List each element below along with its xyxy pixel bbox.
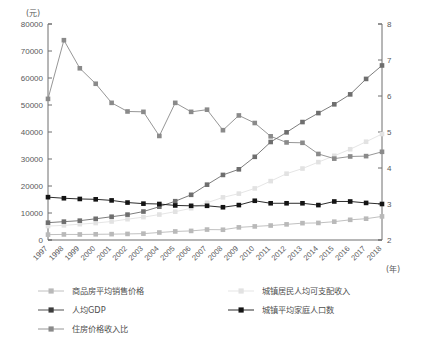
data-point xyxy=(268,223,273,228)
data-point xyxy=(221,128,226,133)
data-point xyxy=(62,232,67,237)
series-line xyxy=(48,216,382,234)
data-point xyxy=(380,63,385,68)
line-chart: 0100002000030000400005000060000700008000… xyxy=(0,0,431,344)
x-axis-tick-label: 2009 xyxy=(222,244,240,262)
data-point xyxy=(332,199,337,204)
data-point xyxy=(141,209,146,214)
x-axis-unit-label: (年) xyxy=(386,264,400,274)
data-point xyxy=(284,140,289,145)
x-axis-tick-label: 2003 xyxy=(127,244,145,262)
data-point xyxy=(364,216,369,221)
x-axis-tick-label: 2001 xyxy=(95,244,113,262)
data-point xyxy=(46,232,51,237)
data-point xyxy=(189,193,194,198)
y-axis-left-tick-label: 40000 xyxy=(21,128,44,137)
data-point xyxy=(348,147,353,152)
data-point xyxy=(109,198,114,203)
data-point xyxy=(316,152,321,157)
data-point xyxy=(141,231,146,236)
data-point xyxy=(109,101,114,106)
data-point xyxy=(364,154,369,159)
y-axis-left-tick-label: 20000 xyxy=(21,182,44,191)
x-axis-tick-label: 2006 xyxy=(174,244,192,262)
x-axis-tick-label: 2007 xyxy=(190,244,208,262)
data-point xyxy=(380,132,385,137)
data-point xyxy=(189,229,194,234)
legend-item[interactable]: 人均GDP xyxy=(38,305,106,315)
data-point xyxy=(173,209,178,214)
series-line xyxy=(48,197,382,207)
data-point xyxy=(62,219,67,224)
x-axis-tick-label: 2014 xyxy=(301,244,319,262)
series-4 xyxy=(46,38,385,161)
x-axis-tick-label: 1997 xyxy=(31,244,49,262)
data-point xyxy=(348,154,353,159)
data-point xyxy=(205,204,210,209)
data-point xyxy=(93,216,98,221)
y-axis-right-tick-label: 4 xyxy=(387,164,392,173)
data-point xyxy=(157,202,162,207)
legend-marker-icon xyxy=(49,326,54,331)
x-axis-tick-label: 2013 xyxy=(286,244,304,262)
y-axis-left-tick-label: 0 xyxy=(39,236,44,245)
data-point xyxy=(221,205,226,210)
data-point xyxy=(364,77,369,82)
data-point xyxy=(252,121,257,126)
legend-marker-icon xyxy=(239,307,244,312)
x-axis-tick-label: 1998 xyxy=(47,244,65,262)
data-point xyxy=(157,230,162,235)
data-point xyxy=(189,204,194,209)
data-point xyxy=(157,212,162,217)
y-axis-left-tick-label: 60000 xyxy=(21,74,44,83)
data-point xyxy=(62,196,67,201)
data-point xyxy=(316,160,321,165)
y-axis-right-tick-label: 5 xyxy=(387,128,392,137)
x-axis-tick-label: 2008 xyxy=(206,244,224,262)
data-point xyxy=(173,101,178,106)
x-axis-tick-label: 2017 xyxy=(349,244,367,262)
chart-container: 0100002000030000400005000060000700008000… xyxy=(0,0,431,344)
y-axis-right-tick-label: 8 xyxy=(387,20,392,29)
data-point xyxy=(78,197,83,202)
data-point xyxy=(78,66,83,71)
data-point xyxy=(237,113,242,118)
data-point xyxy=(125,109,130,114)
x-axis-tick-label: 2015 xyxy=(317,244,335,262)
y-axis-right-tick-label: 3 xyxy=(387,200,392,209)
legend-item[interactable]: 商品房平均销售价格 xyxy=(38,286,144,296)
data-point xyxy=(205,182,210,187)
data-point xyxy=(173,199,178,204)
y-axis-right-tick-label: 2 xyxy=(387,236,392,245)
legend-item[interactable]: 住房价格收入比 xyxy=(38,324,128,334)
legend-label: 城镇居民人均可支配收入 xyxy=(262,286,350,296)
y-axis-left-tick-label: 70000 xyxy=(21,47,44,56)
data-point xyxy=(284,171,289,176)
data-point xyxy=(93,81,98,86)
legend-item[interactable]: 城镇平均家庭人口数 xyxy=(228,305,334,315)
data-point xyxy=(252,186,257,191)
data-point xyxy=(237,167,242,172)
data-point xyxy=(300,120,305,125)
data-point xyxy=(141,201,146,206)
data-point xyxy=(380,202,385,207)
data-point xyxy=(268,140,273,145)
data-point xyxy=(332,102,337,107)
data-point xyxy=(125,200,130,205)
data-point xyxy=(380,214,385,219)
data-point xyxy=(300,166,305,171)
legend-item[interactable]: 城镇居民人均可支配收入 xyxy=(228,286,350,296)
data-point xyxy=(62,38,67,43)
data-point xyxy=(173,229,178,234)
data-point xyxy=(332,156,337,161)
legend-marker-icon xyxy=(49,288,54,293)
data-point xyxy=(268,134,273,139)
data-point xyxy=(125,212,130,217)
y-axis-left-unit-label: (元) xyxy=(26,9,40,18)
data-point xyxy=(316,221,321,226)
data-point xyxy=(78,232,83,237)
data-point xyxy=(348,218,353,223)
data-point xyxy=(78,218,83,223)
data-point xyxy=(46,220,51,225)
data-point xyxy=(221,227,226,232)
